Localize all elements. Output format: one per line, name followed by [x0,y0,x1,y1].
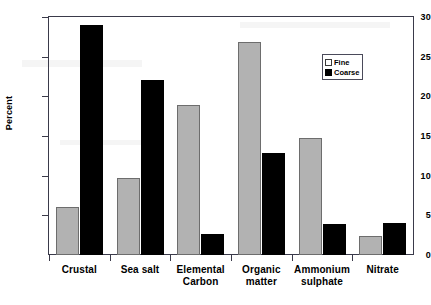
y-axis-title: Percent [4,78,22,148]
x-tick-label-line2: matter [231,276,292,288]
bar-coarse [201,234,224,255]
x-tick-label: Ammoniumsulphate [292,264,353,288]
legend-swatch-fine-icon [325,59,332,66]
bar-fine [299,138,322,255]
bar-fine [117,178,140,255]
bar-fine [359,236,382,255]
x-tick-mark [110,255,111,261]
x-tick-label: Sea salt [110,264,171,276]
legend: Fine Coarse [322,54,363,80]
x-tick-label: Organicmatter [231,264,292,288]
x-tick-label-line1: Nitrate [366,264,398,275]
bar-fine [238,42,261,255]
legend-item-coarse: Coarse [325,67,359,77]
x-tick-mark [170,255,171,261]
bars-layer [49,17,413,255]
x-tick-label-line1: Elemental [177,264,225,275]
bar-coarse [141,80,164,255]
x-tick-label-line2: sulphate [292,276,353,288]
x-tick-mark [49,255,50,261]
x-tick-mark [352,255,353,261]
bar-coarse [262,153,285,255]
x-tick-mark [231,255,232,261]
x-tick-label-line1: Ammonium [294,264,350,275]
bar-coarse [323,224,346,255]
legend-swatch-coarse-icon [325,69,332,76]
x-tick-label: ElementalCarbon [170,264,231,288]
x-tick-label-line1: Organic [242,264,281,275]
legend-item-fine: Fine [325,57,359,67]
x-tick-label-line1: Crustal [62,264,97,275]
bar-coarse [80,25,103,255]
x-tick-label: Nitrate [352,264,413,276]
x-tick-label-line1: Sea salt [121,264,160,275]
x-tick-mark [292,255,293,261]
legend-label-coarse: Coarse [334,68,359,77]
bar-chart: Percent 051015202530 CrustalSea saltElem… [0,0,431,305]
bar-fine [56,207,79,255]
bar-coarse [383,223,406,255]
bar-fine [177,105,200,255]
legend-label-fine: Fine [334,58,349,67]
x-tick-label: Crustal [49,264,110,276]
x-tick-label-line2: Carbon [170,276,231,288]
